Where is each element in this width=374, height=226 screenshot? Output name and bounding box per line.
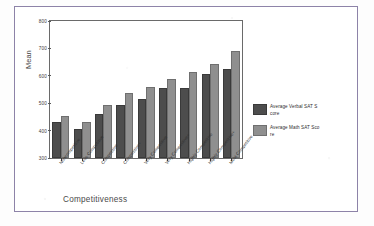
bar — [231, 51, 240, 158]
chart-frame: Mean 300400500600700800 NoncompetitiveLe… — [14, 6, 358, 212]
y-axis-tick-label: 800 — [39, 19, 47, 24]
bar-group — [138, 87, 155, 158]
chart-legend: Average Verbal SAT ScoreAverage Math SAT… — [253, 103, 365, 145]
legend-swatch — [253, 125, 267, 136]
legend-item: Average Math SAT Score — [253, 124, 365, 138]
y-axis-tick-label: 700 — [39, 46, 47, 51]
bar — [167, 79, 176, 158]
bar — [138, 99, 147, 158]
y-axis-tick-label: 400 — [39, 128, 47, 133]
bar — [189, 72, 198, 158]
bar — [52, 122, 61, 158]
y-axis-tick-label: 500 — [39, 101, 47, 106]
bar-group — [116, 93, 133, 158]
legend-item: Average Verbal SAT Score — [253, 103, 365, 117]
y-axis-title: Mean — [24, 50, 33, 69]
screenshot-page: Mean 300400500600700800 NoncompetitiveLe… — [0, 0, 374, 226]
y-axis-tick-label: 600 — [39, 73, 47, 78]
legend-label: Average Verbal SAT Score — [270, 103, 317, 117]
legend-swatch — [253, 104, 267, 115]
x-axis-title: Competitiveness — [63, 195, 127, 204]
y-axis-tick-label: 300 — [39, 156, 47, 161]
bar — [116, 105, 125, 159]
legend-label: Average Math SAT Score — [270, 124, 320, 138]
bar — [210, 64, 219, 158]
